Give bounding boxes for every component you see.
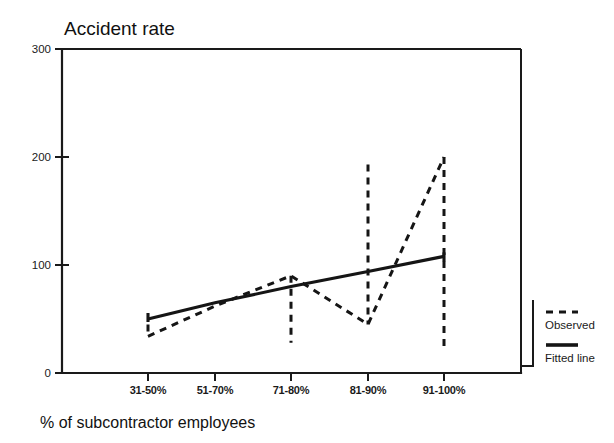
- x-tick-label-1: 51-70%: [197, 384, 234, 396]
- legend: Observed Fitted line: [521, 300, 595, 366]
- y-axis-tick-labels: 300 200 100 0: [32, 43, 51, 379]
- accident-rate-chart: Accident rate 300 200 100 0: [0, 0, 614, 443]
- x-tick-label-4: 91-100%: [423, 384, 466, 396]
- x-tick-label-3: 81-90%: [350, 384, 387, 396]
- x-axis-ticks: [148, 373, 444, 381]
- y-tick-label-100: 100: [32, 259, 51, 271]
- y-tick-label-0: 0: [45, 367, 51, 379]
- legend-connector: [521, 300, 533, 366]
- x-tick-label-0: 31-50%: [130, 384, 167, 396]
- x-tick-label-2: 71-80%: [273, 384, 310, 396]
- legend-label-observed: Observed: [545, 319, 595, 331]
- y-tick-label-200: 200: [32, 151, 51, 163]
- fitted-line-path: [148, 256, 444, 319]
- plot-frame: [62, 49, 521, 373]
- legend-label-fitted: Fitted line: [545, 352, 595, 364]
- chart-title: Accident rate: [64, 18, 175, 39]
- series-fitted: [148, 252, 444, 322]
- series-observed: [148, 157, 444, 349]
- chart-svg: Accident rate 300 200 100 0: [0, 0, 614, 443]
- observed-interval-bars: [148, 157, 444, 349]
- x-axis-tick-labels: 31-50% 51-70% 71-80% 81-90% 91-100%: [130, 384, 466, 396]
- y-tick-label-300: 300: [32, 43, 51, 55]
- x-axis-title: % of subcontractor employees: [40, 414, 255, 431]
